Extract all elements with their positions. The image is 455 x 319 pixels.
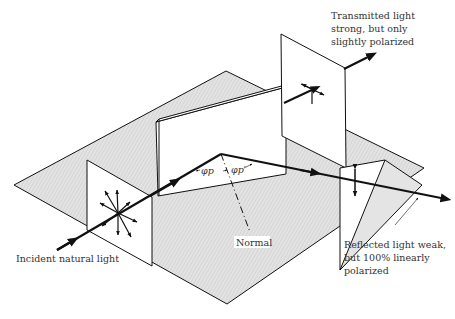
normal-label: Normal [236, 237, 272, 248]
incident-label: Incident natural light [16, 253, 119, 264]
transmitted-label-line2: strong, but only [331, 23, 408, 34]
transmitted-label-line3: slightly polarized [331, 36, 414, 47]
angle-phi-p-label: φp [201, 165, 214, 176]
angle-phi-p-prime-label: φp′ [231, 164, 247, 175]
reflected-label-line3: polarized [344, 265, 389, 276]
reflected-label-line2: but 100% linearly [344, 252, 430, 263]
reflected-label-line1: Reflected light weak, [344, 239, 446, 250]
transmitted-label-line1: Transmitted light [331, 10, 415, 21]
polarization-diagram: φp φp′ Normal Transmitted light strong, … [0, 0, 455, 319]
